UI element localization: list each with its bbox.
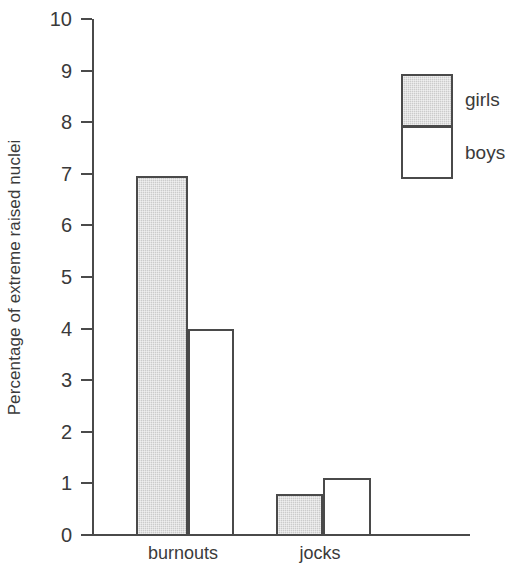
legend-label-girls: girls: [465, 89, 500, 111]
y-axis-tick: 4: [81, 328, 92, 330]
y-axis-tick-label: 1: [61, 473, 81, 493]
y-axis-tick-label: 2: [61, 422, 81, 442]
x-axis-label-jocks: jocks: [299, 543, 340, 564]
y-axis-tick-label: 6: [61, 215, 81, 235]
y-axis-tick: 5: [81, 276, 92, 278]
bar-jocks-boys: [323, 478, 371, 536]
y-axis-tick: 10: [81, 18, 92, 20]
legend-swatch-boys: [401, 126, 453, 179]
y-axis-tick: 8: [81, 121, 92, 123]
y-axis-tick-label: 9: [61, 61, 81, 81]
y-axis-tick-label: 0: [61, 525, 81, 545]
y-axis-tick-label: 5: [61, 267, 81, 287]
y-axis-tick: 9: [81, 70, 92, 72]
bar-burnouts-boys: [188, 329, 234, 536]
y-axis-tick: 0: [81, 534, 92, 536]
bar-chart: Percentage of extreme raised nuclei 1098…: [0, 0, 520, 582]
bar-jocks-girls: [276, 494, 323, 536]
legend: girls boys: [401, 74, 453, 179]
y-axis-tick-label: 3: [61, 370, 81, 390]
legend-swatch-girls: [401, 74, 453, 127]
y-axis-tick: 3: [81, 379, 92, 381]
y-axis-tick-label: 8: [61, 112, 81, 132]
legend-label-boys: boys: [465, 142, 505, 164]
bar-burnouts-girls: [136, 176, 188, 536]
y-axis-tick-label: 10: [50, 9, 81, 29]
y-axis-line: [92, 19, 94, 536]
y-axis-tick-label: 4: [61, 319, 81, 339]
y-axis-tick: 7: [81, 173, 92, 175]
y-axis-tick: 1: [81, 482, 92, 484]
y-axis-tick: 6: [81, 224, 92, 226]
y-axis-tick: 2: [81, 431, 92, 433]
y-axis-tick-label: 7: [61, 164, 81, 184]
x-axis-label-burnouts: burnouts: [148, 543, 218, 564]
y-axis-title: Percentage of extreme raised nuclei: [0, 19, 30, 536]
